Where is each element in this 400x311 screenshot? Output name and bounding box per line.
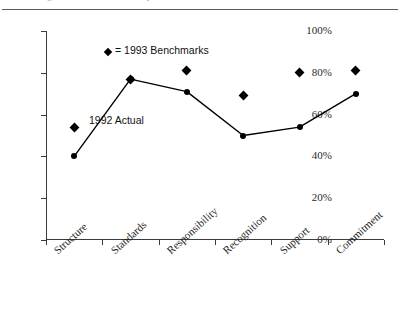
data-point-actual-support	[297, 124, 303, 130]
x-tick-6	[384, 240, 385, 245]
header-divider-rule	[2, 9, 398, 10]
legend-1993-benchmarks: = 1993 Benchmarks	[105, 44, 209, 56]
series-line-1992-actual	[46, 31, 384, 240]
data-point-actual-responsibility	[184, 89, 190, 95]
x-tick-5	[328, 240, 329, 245]
x-tick-3	[215, 240, 216, 245]
cut-off-caption-text: Exhibit 2 Organizational climate survey …	[0, 0, 400, 3]
plot-area: 0%20%40%60%80%100% StructureStandardsRes…	[46, 31, 384, 240]
x-tick-0	[46, 240, 47, 245]
legend-benchmarks-label: = 1993 Benchmarks	[115, 44, 209, 56]
chart-page: Exhibit 2 Organizational climate survey …	[0, 0, 400, 311]
series-label-1992-actual: 1992 Actual	[89, 114, 144, 126]
x-tick-1	[102, 240, 103, 245]
diamond-marker-icon	[104, 48, 112, 56]
data-point-actual-recognition	[240, 133, 246, 139]
data-point-actual-commitment	[353, 91, 359, 97]
x-tick-4	[271, 240, 272, 245]
x-tick-2	[159, 240, 160, 245]
